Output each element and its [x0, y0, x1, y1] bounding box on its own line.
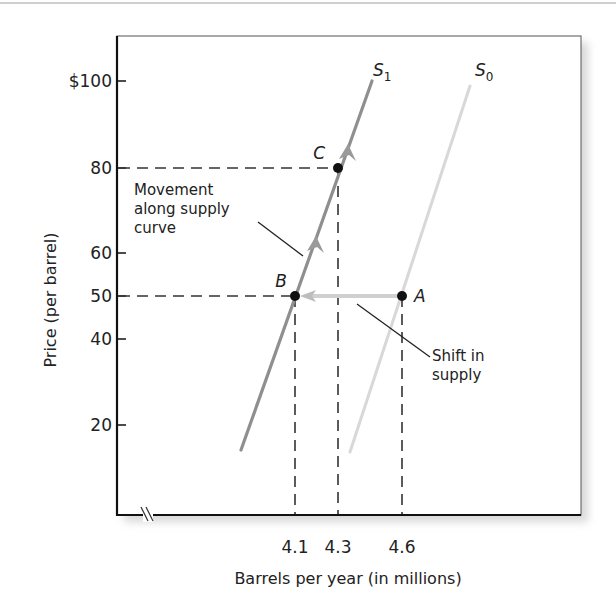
x-tick-4-1: 4.1 [281, 537, 308, 557]
annotation-movement-line2: along supply [134, 200, 230, 218]
point-b-label: B [275, 271, 287, 291]
annotation-shift-line1: Shift in [432, 347, 485, 365]
y-tick-40: 40 [90, 329, 112, 349]
annotation-movement-line3: curve [134, 219, 176, 237]
x-tick-4-6: 4.6 [388, 537, 415, 557]
plot-frame [117, 36, 581, 515]
point-c-label: C [313, 143, 325, 163]
y-tick-100: $100 [69, 71, 112, 91]
y-axis-title: Price (per barrel) [41, 232, 60, 367]
y-tick-80: 80 [90, 158, 112, 178]
point-b [290, 291, 300, 301]
x-axis-title: Barrels per year (in millions) [234, 569, 461, 588]
annotation-shift-line2: supply [432, 366, 482, 384]
annotation-movement-line1: Movement [134, 181, 214, 199]
y-tick-20: 20 [90, 415, 112, 435]
point-a [397, 291, 407, 301]
y-tick-50: 50 [90, 286, 112, 306]
supply-shift-chart: $100 80 60 50 40 20 Price (per barrel) 4… [0, 0, 616, 610]
x-tick-4-3: 4.3 [324, 537, 351, 557]
point-c [333, 163, 343, 173]
y-tick-60: 60 [90, 243, 112, 263]
point-a-label: A [413, 286, 426, 306]
